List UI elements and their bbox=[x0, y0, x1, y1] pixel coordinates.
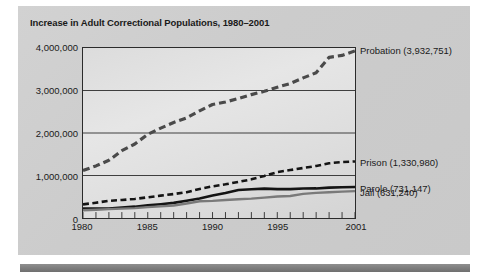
series-end-label: Prison (1,330,980) bbox=[360, 156, 438, 167]
x-axis-tick-label: 2001 bbox=[345, 221, 366, 232]
y-axis-tick-label: 3,000,000 bbox=[36, 85, 78, 96]
series-line-probation bbox=[83, 51, 355, 171]
series-end-label: Jail (631,240) bbox=[360, 186, 418, 197]
figure-panel: Increase in Adult Correctional Populatio… bbox=[18, 6, 470, 255]
y-axis-tick-label: 4,000,000 bbox=[36, 42, 78, 53]
chart-svg bbox=[83, 48, 355, 218]
series-end-label: Probation (3,932,751) bbox=[360, 44, 452, 55]
x-axis-tick-label: 1985 bbox=[137, 221, 158, 232]
x-axis-tick-labels: 19801985199019952001 bbox=[82, 221, 356, 237]
y-axis-tick-label: 1,000,000 bbox=[36, 171, 78, 182]
series-line-parole bbox=[83, 187, 355, 209]
x-axis-tick-label: 1990 bbox=[202, 221, 223, 232]
plot-area bbox=[82, 47, 356, 219]
x-axis-tick-label: 1995 bbox=[267, 221, 288, 232]
x-axis-tick-label: 1980 bbox=[71, 221, 92, 232]
series-line-prison bbox=[83, 161, 355, 204]
y-axis-tick-label: 2,000,000 bbox=[36, 128, 78, 139]
bottom-rule-bar bbox=[20, 264, 470, 272]
y-axis-tick-labels: 4,000,0003,000,0002,000,0001,000,0000 bbox=[18, 6, 78, 255]
